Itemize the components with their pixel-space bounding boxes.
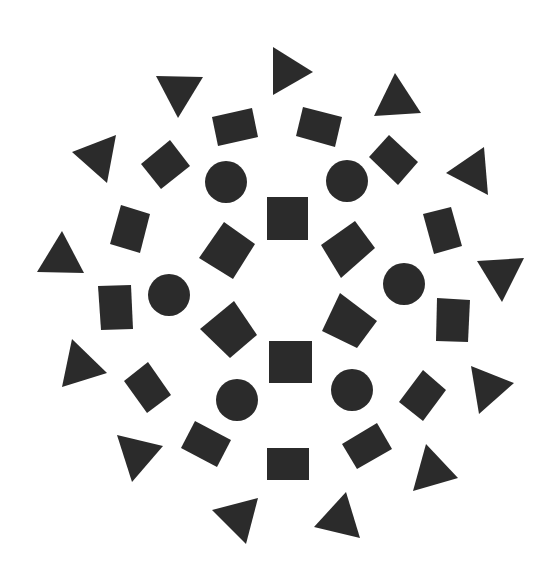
rect-right-middle-shape [436,298,470,342]
rect-left-upper-shape [110,205,150,253]
triangle-up-bottom-shape [314,492,360,538]
triangle-down-bottom-left-shape [117,435,163,482]
circle-lower-right-shape [331,369,373,411]
circle-lower-left-shape [216,379,258,421]
circle-upper-left-shape [205,161,247,203]
circle-right-shape [383,263,425,305]
rect-left-lower-shape [124,362,171,413]
shapes-canvas [0,0,559,572]
square-center-top-shape [267,197,308,240]
triangle-left-lower-left-shape [62,339,107,387]
diamond-upper-right-shape [369,135,418,185]
rect-bottom-right-shape [342,423,392,469]
square-rotated-lower-right-shape [322,293,377,348]
circle-left-shape [148,274,190,316]
triangle-left-upper-right-shape [446,147,488,195]
triangle-down-right-shape [477,258,524,302]
triangle-right-top-shape [273,47,313,95]
triangle-left-bottom-shape [212,498,258,544]
triangle-up-top-right-shape [374,73,421,116]
rect-bottom-shape [267,448,309,480]
triangle-right-lower-right-shape [471,366,514,414]
triangle-up-left-shape [37,231,84,273]
rect-top-right-shape [296,107,342,147]
square-rotated-upper-right-shape [321,221,375,278]
rect-right-upper-shape [423,207,462,254]
square-rotated-upper-left-shape [199,222,255,279]
rect-left-middle-shape [98,285,133,330]
diamond-upper-left-shape [141,140,190,189]
rect-right-lower-shape [399,370,446,421]
triangle-down-top-left-shape [156,76,203,118]
rect-top-left-shape [212,108,258,146]
square-rotated-lower-left-shape [200,301,257,358]
triangle-up-bottom-right-shape [413,444,458,491]
square-center-bottom-shape [269,341,312,383]
rect-bottom-left-shape [181,421,231,467]
circle-upper-right-shape [326,160,368,202]
triangle-left-upper-left-shape [72,135,116,183]
